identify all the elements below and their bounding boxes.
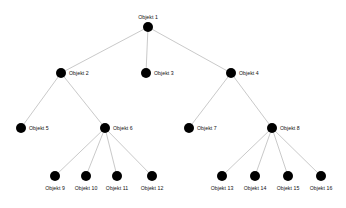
node-label: Objekt 5 — [29, 125, 49, 131]
tree-edge — [189, 73, 231, 128]
node-label: Objekt 7 — [197, 125, 217, 131]
tree-edge — [272, 128, 288, 176]
node-dot-icon[interactable] — [316, 171, 326, 181]
node-label: Objekt 1 — [138, 14, 158, 20]
node-dot-icon[interactable] — [81, 171, 91, 181]
node-dot-icon[interactable] — [143, 22, 153, 32]
node-label: Objekt 8 — [280, 125, 300, 131]
node-label: Objekt 16 — [310, 185, 333, 191]
node-label: Objekt 4 — [239, 70, 259, 76]
node-dot-icon[interactable] — [100, 123, 110, 133]
tree-edge — [148, 27, 231, 73]
node-dot-icon[interactable] — [147, 171, 157, 181]
tree-diagram: Objekt 1Objekt 2Objekt 3Objekt 4Objekt 5… — [0, 0, 346, 208]
node-label: Objekt 11 — [106, 185, 128, 191]
node-dot-icon[interactable] — [50, 171, 60, 181]
tree-edge — [105, 128, 152, 176]
node-label: Objekt 10 — [75, 185, 98, 191]
tree-edge — [61, 73, 105, 128]
tree-edge — [255, 128, 272, 176]
node-label: Objekt 2 — [69, 70, 89, 76]
node-label: Objekt 13 — [211, 185, 234, 191]
node-label: Objekt 14 — [244, 185, 267, 191]
node-label: Objekt 3 — [154, 70, 174, 76]
tree-edge — [231, 73, 272, 128]
tree-edge — [146, 27, 148, 73]
tree-edge — [272, 128, 321, 176]
node-dot-icon[interactable] — [226, 68, 236, 78]
node-dot-icon[interactable] — [283, 171, 293, 181]
node-label: Objekt 15 — [277, 185, 300, 191]
node-label: Objekt 12 — [141, 185, 164, 191]
tree-edge — [105, 128, 117, 176]
node-dot-icon[interactable] — [141, 68, 151, 78]
node-dot-icon[interactable] — [217, 171, 227, 181]
tree-edge — [55, 128, 105, 176]
node-dot-icon[interactable] — [112, 171, 122, 181]
node-dot-icon[interactable] — [56, 68, 66, 78]
node-label: Objekt 9 — [45, 185, 65, 191]
node-dot-icon[interactable] — [250, 171, 260, 181]
tree-edge — [61, 27, 148, 73]
tree-edge — [222, 128, 272, 176]
tree-edge — [21, 73, 61, 128]
node-dot-icon[interactable] — [16, 123, 26, 133]
node-dot-icon[interactable] — [267, 123, 277, 133]
node-label: Objekt 6 — [113, 125, 133, 131]
node-dot-icon[interactable] — [184, 123, 194, 133]
tree-edge — [86, 128, 105, 176]
